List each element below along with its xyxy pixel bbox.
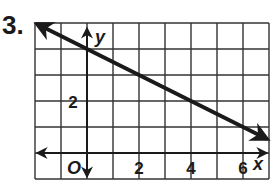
plotted-line [37,24,267,139]
origin-label: O [67,158,81,178]
x-tick-label: 6 [238,159,247,178]
x-axis-label: x [252,154,264,174]
graph-line [37,24,267,139]
x-tick-label: 4 [186,159,196,178]
coordinate-graph: 2462Oxy [0,0,276,188]
x-tick-label: 2 [134,159,143,178]
y-tick-label: 2 [68,93,77,112]
y-axis-label: y [94,27,106,47]
